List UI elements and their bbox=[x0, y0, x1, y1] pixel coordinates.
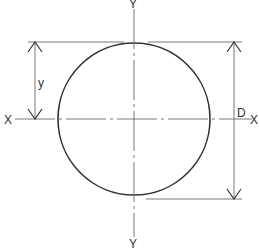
dimension-y-label: y bbox=[38, 76, 44, 90]
d-dimension bbox=[227, 42, 241, 199]
dimension-D-label: D bbox=[237, 106, 246, 120]
cross-section-diagram: Y Y X X y D bbox=[0, 0, 259, 251]
axis-y-top-label: Y bbox=[129, 0, 137, 11]
axis-x-left-label: X bbox=[4, 113, 12, 127]
axis-x-right-label: X bbox=[250, 113, 258, 127]
axis-y-bottom-label: Y bbox=[129, 237, 137, 251]
